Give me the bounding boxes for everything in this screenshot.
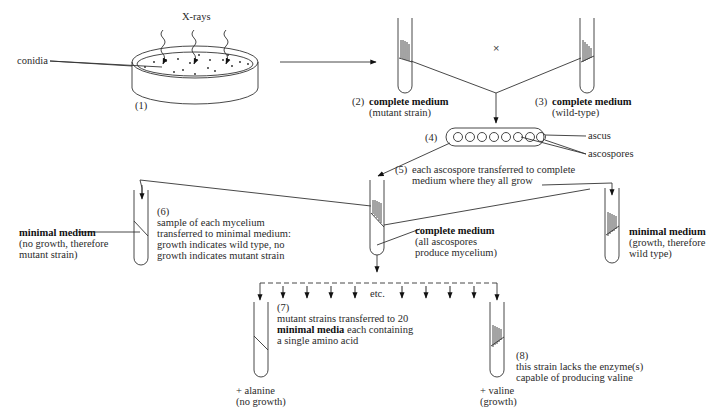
step8-line2: capable of producing valine xyxy=(516,372,643,383)
alanine-line1: + alanine xyxy=(236,385,286,396)
test-tube-alanine xyxy=(254,302,268,377)
valine-caption: + valine (growth) xyxy=(480,385,517,407)
step6-number: (6) xyxy=(157,206,291,217)
valine-line2: (growth) xyxy=(480,396,517,407)
step7-number: (7) xyxy=(277,302,413,313)
step1-number: (1) xyxy=(135,100,147,111)
test-tube-complete-all xyxy=(370,180,384,272)
step6-line1: sample of each mycelium xyxy=(157,217,291,228)
step6-caption: (6) sample of each mycelium transferred … xyxy=(157,206,291,261)
step5-line1: each ascospore transferred to complete xyxy=(412,164,575,175)
step7-line3: a single amino acid xyxy=(277,335,413,346)
step8-line1: this strain lacks the enzyme(s) xyxy=(516,361,643,372)
step3-title: complete medium xyxy=(552,96,632,107)
etc-label: etc. xyxy=(370,288,385,299)
ascus-icon xyxy=(446,128,586,154)
center-tube-line1: (all ascospores xyxy=(415,236,497,247)
step2-subtitle: (mutant strain) xyxy=(369,107,449,118)
petri-dish-icon xyxy=(50,30,258,104)
valine-line1: + valine xyxy=(480,385,517,396)
test-tube-mutant xyxy=(398,18,412,93)
step8-caption: (8) this strain lacks the enzyme(s) capa… xyxy=(516,350,643,383)
left-minimal-line1: (no growth, therefore xyxy=(19,238,109,249)
step6-line3: growth indicates wild type, no xyxy=(157,239,291,250)
center-tube-caption: complete medium (all ascospores produce … xyxy=(415,225,497,258)
step3-subtitle: (wild-type) xyxy=(552,107,632,118)
right-minimal-caption: minimal medium (growth, therefore wild t… xyxy=(629,226,706,259)
step6-line2: transferred to minimal medium: xyxy=(157,228,291,239)
step3-number: (3) xyxy=(535,96,547,107)
step7-line2-rest: each containing xyxy=(344,324,413,335)
step7-caption: (7) mutant strains transferred to 20 min… xyxy=(277,302,413,346)
step5-number: (5) xyxy=(395,164,407,175)
right-minimal-title: minimal medium xyxy=(629,226,706,237)
left-minimal-line2: mutant strain) xyxy=(19,249,109,260)
test-tube-minimal-growth xyxy=(605,188,619,263)
test-tube-valine xyxy=(490,302,504,377)
ascospores-label: ascospores xyxy=(588,148,634,159)
step7-line1: mutant strains transferred to 20 xyxy=(277,313,413,324)
step2-title: complete medium xyxy=(369,96,449,107)
conidia-label: conidia xyxy=(17,55,48,66)
ascus-label: ascus xyxy=(588,130,611,141)
center-tube-title: complete medium xyxy=(415,225,497,236)
right-minimal-line2: wild type) xyxy=(629,248,706,259)
step6-line4: growth indicates mutant strain xyxy=(157,250,291,261)
alanine-line2: (no growth) xyxy=(236,396,286,407)
left-minimal-caption: minimal medium (no growth, therefore mut… xyxy=(19,227,109,260)
step2-caption: complete medium (mutant strain) xyxy=(369,96,449,118)
step8-number: (8) xyxy=(516,350,643,361)
cross-symbol: × xyxy=(493,42,499,54)
step2-number: (2) xyxy=(352,96,364,107)
center-tube-line2: produce mycelium) xyxy=(415,247,497,258)
right-minimal-line1: (growth, therefore xyxy=(629,237,706,248)
test-tube-wild-type xyxy=(580,18,594,93)
left-minimal-title: minimal medium xyxy=(19,227,109,238)
step4-number: (4) xyxy=(425,132,437,143)
step5-caption: each ascospore transferred to complete m… xyxy=(412,164,575,186)
step7-line2-bold: minimal media xyxy=(277,324,344,335)
step5-line2: medium where they all grow xyxy=(412,175,575,186)
xrays-label: X-rays xyxy=(182,11,211,22)
step7-line2: minimal media each containing xyxy=(277,324,413,335)
step3-caption: complete medium (wild-type) xyxy=(552,96,632,118)
alanine-caption: + alanine (no growth) xyxy=(236,385,286,407)
